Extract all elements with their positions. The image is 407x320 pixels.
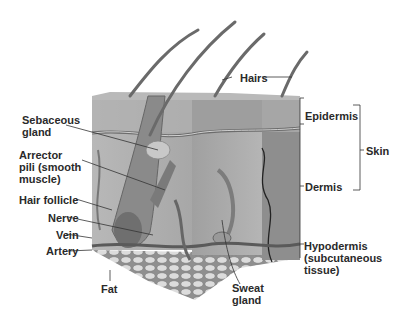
hypodermis-line-2: (subcutaneous	[304, 252, 382, 264]
label-artery: Artery	[46, 245, 78, 257]
sweat-line-2: gland	[232, 294, 264, 306]
label-epidermis: Epidermis	[305, 110, 358, 122]
hypodermis-line-1: Hypodermis	[304, 240, 382, 252]
label-dermis: Dermis	[305, 181, 342, 193]
label-arrector-pili: Arrector pili (smooth muscle)	[19, 149, 81, 185]
label-fat: Fat	[101, 283, 118, 295]
label-vein: Vein	[56, 229, 79, 241]
label-sweat-gland: Sweat gland	[232, 282, 264, 306]
label-nerve: Nerve	[48, 212, 79, 224]
arrector-line-3: muscle)	[19, 173, 81, 185]
sebaceous-line-1: Sebaceous	[22, 114, 80, 126]
arrector-line-2: pili (smooth	[19, 161, 81, 173]
hypodermis-line-3: tissue)	[304, 264, 382, 276]
label-hypodermis: Hypodermis (subcutaneous tissue)	[304, 240, 382, 276]
label-sebaceous-gland: Sebaceous gland	[22, 114, 80, 138]
arrector-line-1: Arrector	[19, 149, 81, 161]
label-hairs: Hairs	[240, 72, 268, 84]
sweat-line-1: Sweat	[232, 282, 264, 294]
label-skin: Skin	[366, 145, 389, 157]
sebaceous-line-2: gland	[22, 126, 80, 138]
label-hair-follicle: Hair follicle	[19, 194, 78, 206]
